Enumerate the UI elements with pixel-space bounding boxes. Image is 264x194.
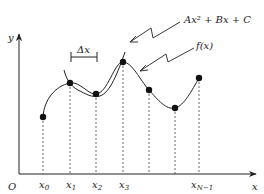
y-axis-label: y — [7, 32, 14, 43]
node-labels: x0 x1 x2 x3 xN−1 — [39, 179, 213, 192]
svg-text:x1: x1 — [66, 179, 76, 192]
node-guides — [43, 62, 199, 174]
function-pointer-arrow — [140, 48, 194, 71]
function-label: f(x) — [195, 40, 213, 51]
node-points — [40, 59, 202, 120]
quadratic-curve — [64, 52, 125, 97]
origin-label: O — [8, 181, 16, 192]
svg-text:xN−1: xN−1 — [191, 179, 213, 192]
x-axis-label: x — [252, 181, 258, 192]
svg-text:x3: x3 — [119, 179, 130, 192]
quadratic-label: Ax² + Bx + C — [183, 14, 251, 25]
delta-x-label: Δx — [76, 44, 90, 55]
svg-text:x2: x2 — [92, 179, 103, 192]
svg-text:x0: x0 — [39, 179, 50, 192]
diagram-canvas: y x O Δx Ax² + Bx + C f(x) x0 — [0, 0, 264, 194]
quadratic-pointer-arrow — [130, 22, 180, 42]
